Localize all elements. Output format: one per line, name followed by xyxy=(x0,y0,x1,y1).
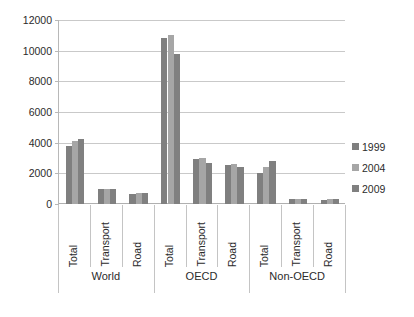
category-separator xyxy=(186,205,187,267)
legend-item[interactable]: 2009 xyxy=(352,178,412,199)
category-separator xyxy=(90,205,91,267)
bar-chart: 120001000080006000400020000 TotalTranspo… xyxy=(0,0,414,317)
y-axis-tick-label: 12000 xyxy=(8,15,52,25)
category-separator xyxy=(58,205,59,267)
category-separator xyxy=(313,205,314,267)
group-separator xyxy=(154,267,155,293)
legend-swatch-icon xyxy=(352,185,359,192)
y-axis-tick-label: 10000 xyxy=(8,46,52,56)
category-label: Road xyxy=(323,242,334,267)
category-separator xyxy=(345,205,346,267)
bar xyxy=(78,139,84,204)
legend-swatch-icon xyxy=(352,143,359,150)
category-label: Total xyxy=(68,245,79,267)
bar xyxy=(269,161,275,204)
category-label: Transport xyxy=(100,222,111,267)
bar xyxy=(333,199,339,204)
group-separator xyxy=(58,267,59,293)
legend-item[interactable]: 2004 xyxy=(352,157,412,178)
bar xyxy=(142,193,148,204)
category-axis-labels: TotalTransportRoadTotalTransportRoadTota… xyxy=(58,205,345,267)
group-label: World xyxy=(58,270,154,282)
bar xyxy=(301,199,307,204)
bars-layer xyxy=(59,20,345,204)
bar xyxy=(206,163,212,204)
chart-legend: 199920042009 xyxy=(352,136,412,199)
category-label: Road xyxy=(227,242,238,267)
category-separator xyxy=(154,205,155,267)
legend-label: 1999 xyxy=(362,142,385,152)
y-axis-tick-label: 8000 xyxy=(8,76,52,86)
category-label: Transport xyxy=(291,222,302,267)
group-separator xyxy=(249,267,250,293)
y-axis-tick-label: 0 xyxy=(8,199,52,209)
y-axis-tick-label: 2000 xyxy=(8,168,52,178)
legend-swatch-icon xyxy=(352,164,359,171)
bar xyxy=(110,189,116,204)
y-axis-tick-labels: 120001000080006000400020000 xyxy=(0,20,52,204)
legend-item[interactable]: 1999 xyxy=(352,136,412,157)
category-label: Total xyxy=(259,245,270,267)
bar xyxy=(237,167,243,204)
group-label: Non-OECD xyxy=(249,270,345,282)
plot-area xyxy=(58,20,345,204)
group-label: OECD xyxy=(154,270,250,282)
category-separator xyxy=(281,205,282,267)
category-label: Transport xyxy=(196,222,207,267)
bar xyxy=(174,54,180,204)
legend-label: 2009 xyxy=(362,184,385,194)
y-axis-tick-label: 6000 xyxy=(8,107,52,117)
y-axis-tick-label: 4000 xyxy=(8,138,52,148)
group-axis-labels: WorldOECDNon-OECD xyxy=(58,267,345,297)
category-separator xyxy=(217,205,218,267)
category-label: Road xyxy=(132,242,143,267)
category-separator xyxy=(249,205,250,267)
category-label: Total xyxy=(164,245,175,267)
category-separator xyxy=(122,205,123,267)
legend-label: 2004 xyxy=(362,163,385,173)
group-separator xyxy=(345,267,346,293)
